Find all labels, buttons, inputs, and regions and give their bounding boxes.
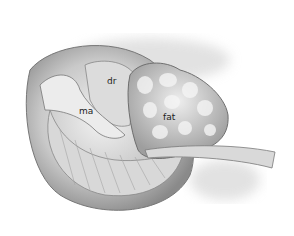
shadow-bottom xyxy=(190,160,260,200)
label-fat: fat xyxy=(163,112,175,122)
label-dr: dr xyxy=(107,76,116,86)
anatomical-illustration xyxy=(0,0,294,236)
label-ma: ma xyxy=(79,106,93,116)
